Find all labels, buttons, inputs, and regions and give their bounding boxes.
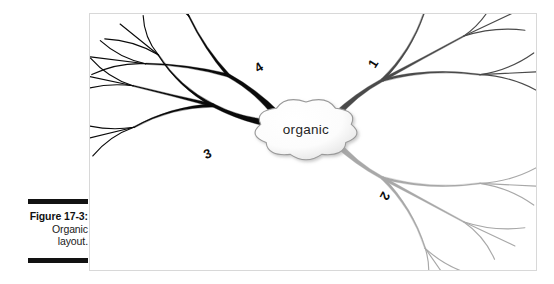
branch-4-sub-2-twig-1 bbox=[144, 14, 189, 16]
branch-4-sub-1-twig-3 bbox=[100, 41, 145, 64]
figure-art-frame: organic 1234 bbox=[89, 13, 537, 271]
branch-1-sub-2 bbox=[382, 36, 464, 82]
branch-4-sub-1-twig-1 bbox=[92, 64, 146, 75]
branch-number-4: 4 bbox=[252, 59, 267, 76]
branch-4 bbox=[90, 14, 281, 120]
branch-3-sub-1-twig-3 bbox=[90, 122, 134, 128]
branch-4-sub-2-twig-2 bbox=[163, 14, 189, 16]
caption-text: Figure 17-3: Organic layout. bbox=[0, 210, 88, 248]
branch-2-sub-2 bbox=[382, 177, 464, 223]
branch-4-sub-1-twig-2 bbox=[90, 57, 145, 64]
caption-rule-top bbox=[28, 199, 88, 204]
branch-3-sub-1-twig-1 bbox=[93, 127, 134, 156]
caption-rule-bottom bbox=[28, 258, 88, 263]
branch-number-3: 3 bbox=[201, 146, 213, 163]
branch-4-sub-1 bbox=[146, 63, 229, 77]
branch-2-sub-2-twig-1 bbox=[464, 222, 525, 229]
branch-1-sub-3-twig-1 bbox=[480, 53, 534, 75]
figure-number-label: Figure 17-3: bbox=[0, 210, 88, 223]
caption-line-2: layout. bbox=[0, 235, 88, 248]
branch-3-sub-3-twig-1 bbox=[105, 39, 158, 55]
branch-1-sub-2-twig-2 bbox=[464, 14, 515, 36]
caption-line-1: Organic bbox=[0, 223, 88, 236]
organic-mindmap-diagram: organic 1234 bbox=[90, 14, 536, 270]
branch-number-2: 2 bbox=[377, 189, 394, 202]
branch-number-1: 1 bbox=[365, 57, 382, 71]
branch-1-sub-2-twig-1 bbox=[464, 14, 495, 36]
branch-1-sub-2-twig-3 bbox=[464, 29, 525, 36]
branch-1-sub-1 bbox=[381, 14, 426, 81]
branch-2-sub-1-twig-1 bbox=[480, 167, 536, 183]
branch-1 bbox=[332, 14, 536, 120]
branch-3-sub-3-twig-2 bbox=[120, 24, 158, 55]
figure-caption-block: Figure 17-3: Organic layout. bbox=[0, 190, 92, 275]
figure-17-3: Figure 17-3: Organic layout. organic 123… bbox=[0, 0, 554, 284]
branch-2-sub-1-twig-3 bbox=[480, 183, 534, 205]
branch-2 bbox=[332, 138, 536, 270]
branch-3-sub-2-twig-1 bbox=[90, 85, 133, 92]
branch-3-sub-2 bbox=[133, 85, 214, 107]
branch-3-sub-1 bbox=[134, 104, 214, 128]
branch-1-sub-3-twig-3 bbox=[480, 75, 536, 91]
branch-2-sub-2-twig-2 bbox=[464, 222, 515, 246]
center-node-label: organic bbox=[283, 122, 329, 137]
